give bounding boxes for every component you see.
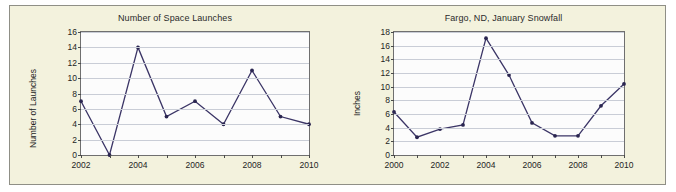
y-tick-label: 12 xyxy=(68,58,77,68)
gridline xyxy=(394,73,624,74)
gridline xyxy=(81,78,309,79)
y-tick-mark xyxy=(78,140,81,141)
gridline xyxy=(394,100,624,101)
y-tick-mark xyxy=(391,73,394,74)
data-point-marker xyxy=(576,134,580,138)
y-tick-mark xyxy=(391,46,394,47)
x-tick-mark xyxy=(624,155,625,158)
x-tick-mark xyxy=(440,155,441,158)
y-tick-mark xyxy=(78,63,81,64)
gridline xyxy=(394,128,624,129)
y-tick-mark xyxy=(391,141,394,142)
x-tick-mark xyxy=(555,155,556,158)
gridline xyxy=(81,63,309,64)
x-tick-label: 2010 xyxy=(300,160,319,170)
x-tick-mark xyxy=(394,155,395,158)
data-point-marker xyxy=(279,115,283,119)
x-tick-mark xyxy=(532,155,533,158)
y-tick-label: 14 xyxy=(381,54,390,64)
gridline xyxy=(81,32,309,33)
y-tick-label: 0 xyxy=(72,150,77,160)
y-tick-label: 2 xyxy=(385,136,390,146)
y-tick-label: 10 xyxy=(68,73,77,83)
series-polyline xyxy=(394,38,624,137)
gridline xyxy=(394,141,624,142)
y-tick-label: 14 xyxy=(68,42,77,52)
x-tick-mark xyxy=(252,155,253,158)
y-tick-label: 8 xyxy=(385,95,390,105)
gridline xyxy=(81,47,309,48)
gridline xyxy=(81,109,309,110)
y-tick-label: 4 xyxy=(72,119,77,129)
chart-space-launches: Number of Space Launches Number of Launc… xyxy=(10,6,340,184)
y-tick-label: 6 xyxy=(72,104,77,114)
gridline xyxy=(394,32,624,33)
y-tick-mark xyxy=(78,47,81,48)
y-tick-label: 2 xyxy=(72,135,77,145)
x-tick-mark xyxy=(509,155,510,158)
y-tick-label: 8 xyxy=(72,89,77,99)
y-tick-label: 4 xyxy=(385,123,390,133)
y-tick-label: 6 xyxy=(385,109,390,119)
x-tick-label: 2010 xyxy=(615,160,634,170)
plot-area: 024681012141620022004200620082010 xyxy=(80,31,310,156)
plot-area: 024681012141618200020022004200620082010 xyxy=(393,31,625,156)
x-tick-mark xyxy=(309,155,310,158)
gridline xyxy=(394,87,624,88)
x-tick-label: 2002 xyxy=(72,160,91,170)
data-point-marker xyxy=(599,104,603,108)
y-tick-mark xyxy=(78,32,81,33)
x-tick-mark xyxy=(417,155,418,158)
chart-title: Number of Space Launches xyxy=(10,13,340,23)
y-tick-label: 10 xyxy=(381,82,390,92)
y-tick-mark xyxy=(391,114,394,115)
y-tick-label: 0 xyxy=(385,150,390,160)
y-axis-label: Number of Launches xyxy=(28,69,38,148)
data-point-marker xyxy=(415,135,419,139)
y-tick-label: 18 xyxy=(381,27,390,37)
y-tick-mark xyxy=(391,128,394,129)
data-point-marker xyxy=(165,115,169,119)
data-series-line xyxy=(81,32,311,157)
gridline xyxy=(394,46,624,47)
data-point-marker xyxy=(193,99,197,103)
data-point-marker xyxy=(484,36,488,40)
y-axis-label: Inches xyxy=(352,91,362,116)
x-tick-label: 2006 xyxy=(523,160,542,170)
x-tick-mark xyxy=(486,155,487,158)
x-tick-label: 2004 xyxy=(477,160,496,170)
x-tick-mark xyxy=(578,155,579,158)
chart-fargo-snowfall: Fargo, ND, January Snowfall Inches 02468… xyxy=(340,6,667,184)
y-tick-mark xyxy=(78,78,81,79)
x-tick-label: 2000 xyxy=(385,160,404,170)
figure-panel: Number of Space Launches Number of Launc… xyxy=(9,5,666,185)
x-tick-mark xyxy=(195,155,196,158)
x-tick-label: 2008 xyxy=(243,160,262,170)
x-tick-mark xyxy=(463,155,464,158)
gridline xyxy=(394,59,624,60)
y-tick-label: 12 xyxy=(381,68,390,78)
x-tick-mark xyxy=(81,155,82,158)
y-tick-mark xyxy=(391,32,394,33)
x-tick-mark xyxy=(224,155,225,158)
y-tick-mark xyxy=(391,59,394,60)
x-tick-mark xyxy=(138,155,139,158)
data-series-line xyxy=(394,32,626,157)
gridline xyxy=(81,140,309,141)
y-tick-label: 16 xyxy=(381,41,390,51)
x-tick-mark xyxy=(167,155,168,158)
gridline xyxy=(81,94,309,95)
data-point-marker xyxy=(553,134,557,138)
x-tick-mark xyxy=(110,155,111,158)
y-tick-mark xyxy=(78,94,81,95)
y-tick-mark xyxy=(78,124,81,125)
data-point-marker xyxy=(250,69,254,73)
x-tick-label: 2008 xyxy=(569,160,588,170)
gridline xyxy=(394,114,624,115)
gridline xyxy=(81,124,309,125)
y-tick-mark xyxy=(391,87,394,88)
x-tick-mark xyxy=(601,155,602,158)
y-tick-label: 16 xyxy=(68,27,77,37)
data-point-marker xyxy=(461,123,465,127)
chart-title: Fargo, ND, January Snowfall xyxy=(340,13,667,23)
